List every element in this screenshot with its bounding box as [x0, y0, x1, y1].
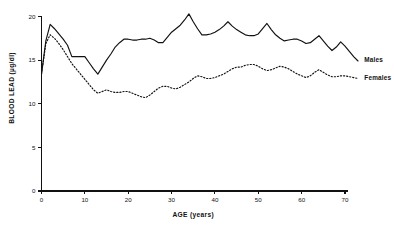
series-line-males: [42, 14, 359, 74]
series-inline-labels: MalesFemales: [364, 56, 391, 80]
y-axis-group: 05101520: [29, 13, 42, 195]
x-tick-label: 60: [298, 196, 305, 203]
y-tick-label: 20: [29, 13, 36, 20]
y-axis-tick-labels: 05101520: [29, 13, 36, 195]
data-series-group: [42, 14, 359, 98]
x-tick-label: 0: [40, 196, 44, 203]
x-tick-label: 70: [342, 196, 349, 203]
x-tick-label: 10: [81, 196, 88, 203]
chart-canvas: 05101520 010203040506070 MalesFemales AG…: [0, 0, 394, 236]
x-tick-label: 50: [255, 196, 262, 203]
series-label-females: Females: [364, 74, 391, 81]
y-tick-label: 15: [29, 56, 36, 63]
x-tick-label: 40: [211, 196, 218, 203]
y-tick-label: 5: [32, 144, 36, 151]
y-axis-title: BLOOD LEAD (µg/dl): [8, 52, 16, 124]
y-tick-label: 10: [29, 100, 36, 107]
x-tick-label: 30: [168, 196, 175, 203]
y-axis-title-text: BLOOD LEAD (µg/dl): [8, 52, 16, 124]
series-label-males: Males: [364, 56, 383, 63]
series-line-females: [42, 35, 359, 98]
x-axis-group: 010203040506070: [40, 191, 349, 203]
x-axis-title: AGE (years): [172, 211, 214, 219]
y-tick-label: 0: [32, 187, 36, 194]
x-tick-label: 20: [125, 196, 132, 203]
blood-lead-by-age-chart: 05101520 010203040506070 MalesFemales AG…: [0, 0, 394, 236]
x-axis-tick-labels: 010203040506070: [40, 196, 349, 203]
